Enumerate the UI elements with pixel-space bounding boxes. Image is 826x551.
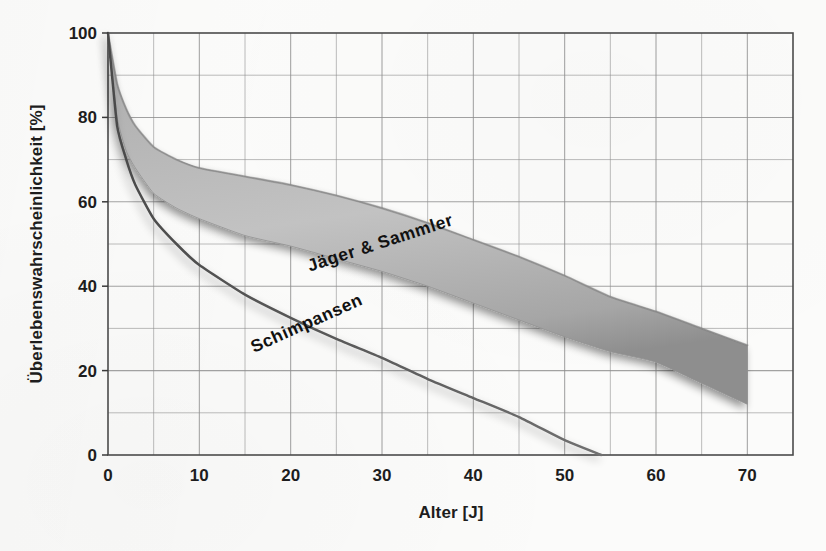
x-axis-title: Alter [J] xyxy=(418,503,483,522)
y-axis-title: Überlebenswahrscheinlichkeit [%] xyxy=(27,104,46,383)
x-tick-label: 40 xyxy=(464,466,483,485)
line-series-label: Schimpansen xyxy=(247,289,365,356)
y-tick-label: 20 xyxy=(78,362,97,381)
x-tick-label: 50 xyxy=(555,466,574,485)
x-tick-label: 20 xyxy=(281,466,300,485)
y-tick-label: 60 xyxy=(78,193,97,212)
survival-probability-chart: 010203040506070 020406080100 Alter [J] Ü… xyxy=(0,0,826,551)
y-tick-label: 100 xyxy=(69,24,97,43)
x-tick-label: 30 xyxy=(373,466,392,485)
y-axis-tick-labels: 020406080100 xyxy=(69,24,108,465)
x-axis-tick-labels: 010203040506070 xyxy=(103,466,757,485)
y-tick-label: 80 xyxy=(78,108,97,127)
x-tick-label: 60 xyxy=(647,466,666,485)
x-tick-label: 10 xyxy=(190,466,209,485)
y-tick-label: 0 xyxy=(88,446,97,465)
x-tick-label: 70 xyxy=(738,466,757,485)
chart-page: 010203040506070 020406080100 Alter [J] Ü… xyxy=(0,0,826,551)
y-tick-label: 40 xyxy=(78,277,97,296)
x-tick-label: 0 xyxy=(103,466,112,485)
